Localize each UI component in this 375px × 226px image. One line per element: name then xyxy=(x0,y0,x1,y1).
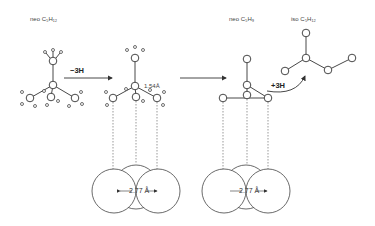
spacing-label-right: 2.77 Å xyxy=(239,186,260,194)
hydrogenation-step: +3H xyxy=(267,76,305,92)
label-neo-c5h12: neo C₅H₁₂ xyxy=(30,16,58,22)
surface-atoms-right: 2.77 Å xyxy=(202,165,290,213)
dehydrogenation-step: −3H xyxy=(64,66,112,78)
surface-atoms-left: 2.77 Å xyxy=(92,165,180,213)
spacing-label-left: 2.77 Å xyxy=(129,186,150,194)
neo-c5h9-adsorbed xyxy=(219,55,272,170)
isomerization-diagram: neo C₅H₁₂ neo C₅H₉ iso C₅H₁₂ − xyxy=(0,0,375,226)
plus-3h-label: +3H xyxy=(271,81,285,90)
adsorbed-neo-molecule: 1.54Å xyxy=(105,46,166,171)
label-neo-c5h9: neo C₅H₉ xyxy=(229,16,255,22)
minus-3h-label: −3H xyxy=(70,66,84,75)
bond-length-label: 1.54Å xyxy=(144,83,160,89)
label-iso-c5h12: iso C₅H₁₂ xyxy=(291,16,316,22)
isopentane-molecule xyxy=(281,29,356,75)
